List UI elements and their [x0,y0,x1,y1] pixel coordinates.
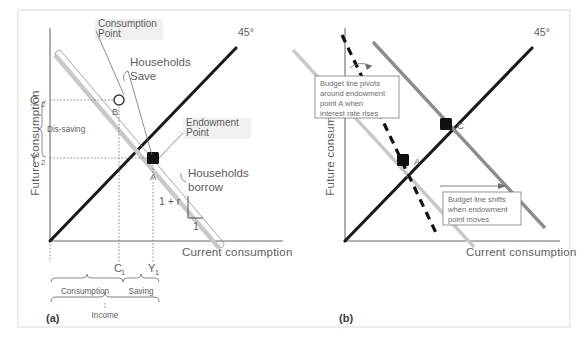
panel-a-point-a-marker [147,152,159,164]
panel-b-callout-shift-line-1: Budget line shifts [448,195,506,204]
panel-a-x-tick-y1-sub: 1 [155,268,159,277]
panel-a-annotation-households-borrow-line-2: borrow [188,181,224,193]
panel-a-annotation-households-save-line-1: Households [130,56,191,68]
panel-a-label: (a) [46,312,60,324]
panel-b-callout-pivot-line-4: interest rate rises [320,109,378,118]
panel-a-slope-rise-label: 1 + r [159,195,181,207]
panel-a-brace-dis-saving-label: Dis-saving [47,125,86,134]
panel-b-callout-pivot-line-2: around endowment [320,89,386,98]
panel-a-annotation-consumption-point-line-2: Point [98,28,121,39]
panel-b-callout-shift: Budget line shifts when endowment point … [443,192,521,225]
panel-a-annotation-households-borrow-line-1: Households [188,167,249,179]
panel-a-point-b-marker [114,95,124,105]
panel-b-label: (b) [339,312,353,324]
panel-b-point-c-label: C [457,120,464,131]
panel-a-x-tick-c1-sub: 1 [121,268,125,277]
panel-b-callout-pivot-line-3: point A when [320,99,363,108]
panel-a-brace-saving-label: Saving [128,287,153,296]
panel-b-callout-shift-line-2: when endowment [447,205,508,214]
panel-b-45-degree-label: 45° [534,26,550,38]
figure-container: Future consumption Current consumption 4… [0,0,586,340]
panel-b-x-axis-label: Current consumption [466,246,577,258]
panel-a-x-axis-label: Current consumption [182,246,293,258]
panel-a-y-axis-label: Future consumption [29,90,41,195]
panel-b-callout-pivot-line-1: Budget line pivots [320,79,380,88]
panel-b-point-a-label: A [414,156,421,167]
panel-a-y-tick-y2-base: Y [30,152,38,164]
panel-a-brace-income-label: Income [92,311,119,320]
panel-a-brace-consumption-label: Consumption [61,287,110,296]
panel-a-45-degree-label: 45° [238,26,254,38]
panel-b-callout-shift-line-3: point moves [448,215,489,224]
panel-a-annotation-endowment-point-line-2: Point [186,127,209,138]
economics-figure: Future consumption Current consumption 4… [0,0,586,340]
panel-a-annotation-households-save-line-2: Save [130,70,156,82]
panel-a-slope-run-label: 1 [193,220,199,232]
panel-a-y-tick-c2-base: C [30,94,38,106]
panel-b-point-c-marker [440,118,452,130]
panel-b-point-a-marker [397,154,409,166]
panel-a-point-a-label: A [150,171,157,182]
panel-a-point-b-label: B [112,106,118,117]
panel-a-y-tick-y2-sub: 2 [41,158,45,167]
